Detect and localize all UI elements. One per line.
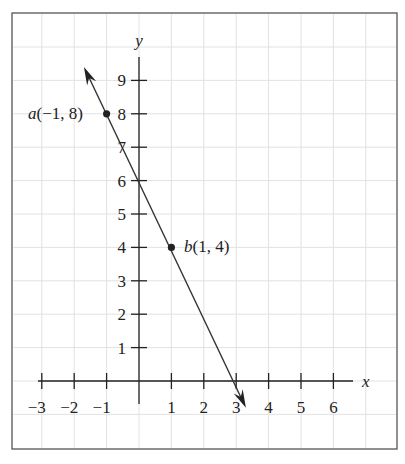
x-tick-label: −3 xyxy=(28,398,46,417)
point-b-label: b(1, 4) xyxy=(184,237,229,256)
point-b xyxy=(168,244,175,251)
x-tick-label: 3 xyxy=(232,398,241,417)
y-tick-label: 4 xyxy=(118,238,127,257)
point-a-coords: (−1, 8) xyxy=(37,104,83,123)
y-tick-label: 5 xyxy=(118,205,127,224)
x-tick-label: 4 xyxy=(264,398,273,417)
y-axis-label: y xyxy=(133,31,143,50)
y-tick-label: 9 xyxy=(118,71,127,90)
y-tick-label: 3 xyxy=(118,272,127,291)
x-tick-label: −2 xyxy=(60,398,78,417)
point-b-name: b xyxy=(184,237,193,256)
x-tick-label: 2 xyxy=(200,398,209,417)
x-tick-label: 6 xyxy=(329,398,338,417)
arrowhead-up-icon xyxy=(84,67,96,85)
point-a xyxy=(103,110,110,117)
y-tick-label: 6 xyxy=(118,172,127,191)
chart-frame xyxy=(12,13,397,449)
point-a-label: a(−1, 8) xyxy=(28,104,83,123)
x-tick-label: 1 xyxy=(167,398,176,417)
grid-lines xyxy=(13,14,396,448)
y-tick-label: 1 xyxy=(118,339,127,358)
y-tick-label: 2 xyxy=(118,305,127,324)
coordinate-plane: −3−2−1123456123456789 x y a(−1, 8) b(1, … xyxy=(0,0,405,464)
axes xyxy=(38,57,353,404)
x-axis-label: x xyxy=(361,372,370,391)
x-tick-label: 5 xyxy=(297,398,306,417)
point-a-name: a xyxy=(28,104,37,123)
x-tick-label: −1 xyxy=(93,398,111,417)
y-tick-label: 8 xyxy=(118,105,127,124)
point-b-coords: (1, 4) xyxy=(193,237,230,256)
